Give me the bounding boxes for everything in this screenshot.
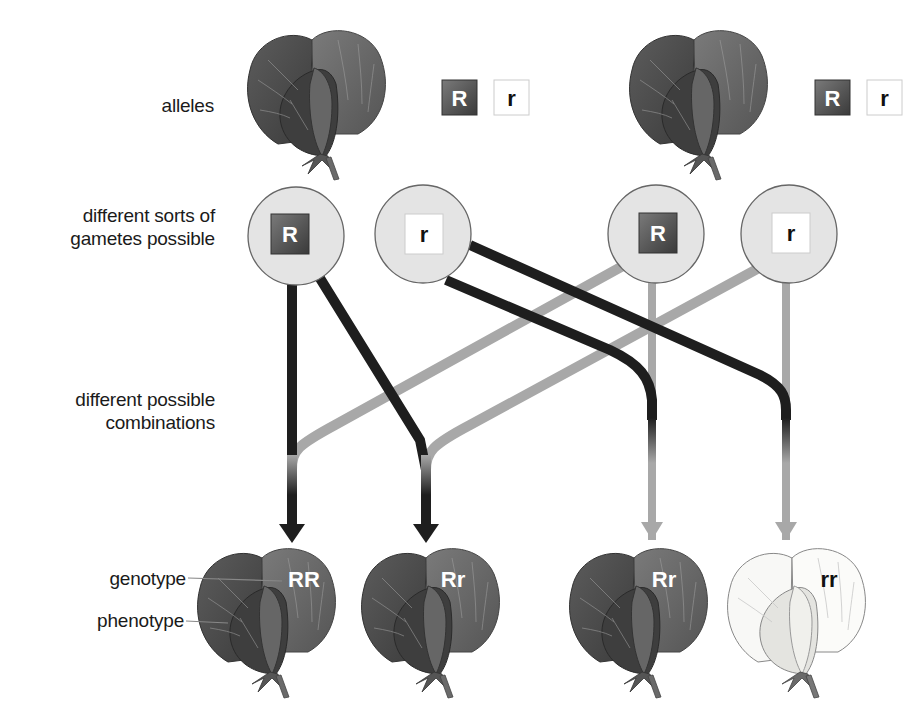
svg-text:r: r xyxy=(420,222,429,247)
svg-text:r: r xyxy=(880,86,889,111)
svg-text:R: R xyxy=(825,86,841,111)
dominant-paths xyxy=(292,245,786,470)
parent-flower-2 xyxy=(630,31,768,180)
offspring-genotype-4: rr xyxy=(820,567,838,592)
offspring-flower-4 xyxy=(728,549,866,698)
offspring-genotype-2: Rr xyxy=(441,567,466,592)
svg-text:R: R xyxy=(650,221,666,246)
gamete-2: r xyxy=(375,185,471,283)
svg-text:R: R xyxy=(282,222,298,247)
offspring-genotype-3: Rr xyxy=(652,567,677,592)
gamete-4: r xyxy=(741,185,837,283)
arrow-down-icon xyxy=(775,522,797,540)
parent-flower-1 xyxy=(248,31,386,180)
offspring-genotype-1: RR xyxy=(288,567,320,592)
parent-2-alleles: R r xyxy=(815,80,902,115)
svg-text:r: r xyxy=(787,221,796,246)
allele-R: R xyxy=(452,86,468,111)
cross-diagram: R r R r R r xyxy=(0,0,924,716)
gamete-1: R xyxy=(248,187,344,285)
recessive-paths xyxy=(292,262,786,540)
allele-r: r xyxy=(507,86,516,111)
arrow-down-icon xyxy=(413,524,439,543)
arrow-down-icon xyxy=(279,524,305,543)
offspring-flower-2 xyxy=(362,549,500,698)
gamete-3: R xyxy=(608,185,704,283)
parent-1-alleles: R r xyxy=(442,80,529,115)
offspring-flower-3 xyxy=(570,549,708,698)
arrow-down-icon xyxy=(641,522,663,540)
